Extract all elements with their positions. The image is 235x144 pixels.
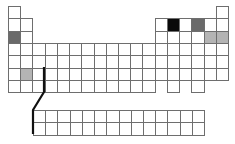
periodic-table-diagram xyxy=(0,0,235,144)
f-block-connector-line xyxy=(0,0,235,144)
